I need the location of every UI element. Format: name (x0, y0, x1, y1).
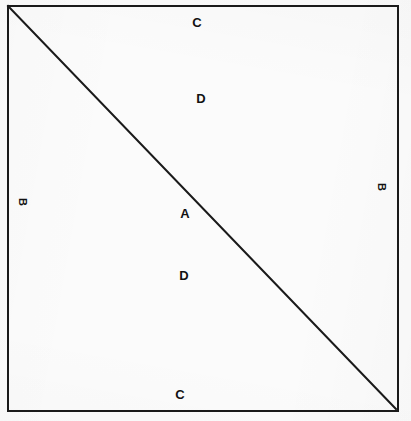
label-b-right: B (376, 183, 387, 191)
figure-canvas: C D B A B D C (0, 0, 411, 421)
label-d-lower: D (179, 269, 189, 282)
diagonal-line (8, 6, 396, 409)
label-b-left: B (17, 198, 28, 206)
label-a-center: A (180, 207, 190, 220)
label-c-bottom: C (175, 388, 185, 401)
label-d-upper: D (196, 92, 206, 105)
label-c-top: C (192, 16, 202, 29)
figure-vector-layer (0, 0, 411, 421)
